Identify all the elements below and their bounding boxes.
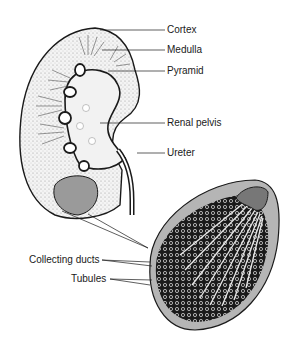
kidney-diagram [0, 0, 285, 340]
label-renal-pelvis: Renal pelvis [167, 117, 221, 129]
label-tubules: Tubules [71, 273, 106, 285]
label-ureter: Ureter [167, 147, 195, 159]
label-cortex: Cortex [167, 24, 196, 36]
label-pyramid: Pyramid [167, 65, 204, 77]
label-collecting-ducts: Collecting ducts [29, 254, 100, 266]
enlargement-connectors [62, 211, 148, 248]
pyramid-enlargement [150, 180, 279, 330]
label-medulla: Medulla [167, 44, 202, 56]
